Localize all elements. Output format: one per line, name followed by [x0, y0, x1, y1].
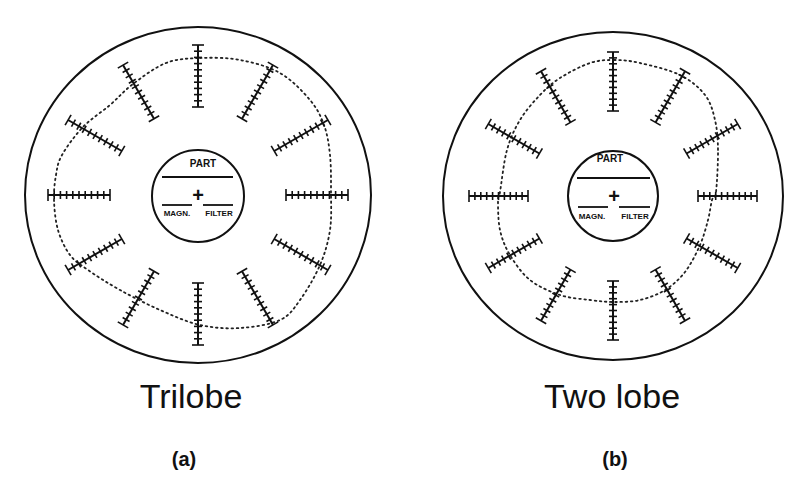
scale-bar [118, 268, 159, 328]
panel-trilobe: PART + MAGN. FILTER Trilobe (a) [25, 27, 371, 470]
scale-bar [684, 233, 741, 273]
scale-bar [607, 281, 619, 340]
center-crosshair-icon: + [192, 184, 204, 206]
filter-label: FILTER [205, 209, 233, 218]
filter-label: FILTER [621, 212, 649, 221]
scale-bar [271, 234, 331, 275]
scale-bar [192, 45, 204, 107]
scale-bar [65, 115, 125, 156]
scale-bar [698, 190, 757, 202]
panel-title: Two lobe [544, 377, 680, 415]
scale-bar [684, 119, 741, 159]
scale-bar [237, 268, 278, 328]
part-label: PART [597, 153, 623, 164]
scale-bar [192, 283, 204, 345]
roundness-measurement-diagram: PART + MAGN. FILTER Trilobe (a) PART + M… [0, 0, 802, 489]
magnification-label: MAGN. [164, 209, 191, 218]
scale-bar [469, 190, 528, 202]
panel-title: Trilobe [140, 377, 243, 415]
scale-bar [237, 62, 278, 122]
center-crosshair-icon: + [608, 185, 620, 207]
scale-bar [485, 233, 542, 273]
scale-bar [65, 234, 125, 275]
scale-bar [536, 267, 576, 324]
scale-bar [286, 189, 348, 201]
scale-bar [650, 68, 690, 125]
part-label: PART [190, 158, 216, 169]
panel-two-lobe: PART + MAGN. FILTER Two lobe (b) [443, 32, 783, 470]
scale-bar [485, 119, 542, 159]
scale-bar [536, 68, 576, 125]
scale-bar [48, 189, 110, 201]
magnification-label: MAGN. [579, 212, 606, 221]
panel-sublabel: (a) [172, 448, 196, 470]
panel-sublabel: (b) [602, 448, 628, 470]
scale-bar [271, 115, 331, 156]
